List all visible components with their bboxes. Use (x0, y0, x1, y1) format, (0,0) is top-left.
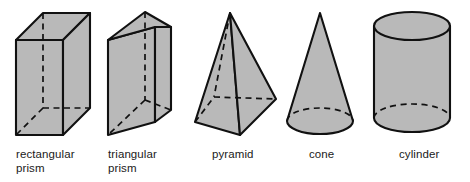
cylinder-lateral-face (374, 26, 450, 132)
label-pyramid: pyramid (212, 148, 254, 162)
pyramid-drawing (183, 0, 293, 145)
tri-prism-front-face (108, 27, 155, 135)
label-cone: cone (309, 148, 334, 162)
label-cylinder: cylinder (399, 148, 439, 162)
rect-prism-front-face (16, 40, 63, 135)
tri-prism-right-face (155, 27, 171, 122)
geometric-solids-figure: rectangular prism triangular prism pyram… (0, 0, 470, 182)
cone-lateral-face (287, 13, 353, 134)
rectangular-prism-drawing (0, 0, 110, 145)
label-rectangular-prism: rectangular prism (16, 148, 75, 175)
cylinder-top-ellipse (374, 12, 450, 40)
triangular-prism-drawing (98, 0, 193, 145)
cone-drawing (278, 0, 378, 145)
cylinder-drawing (368, 0, 468, 145)
label-triangular-prism: triangular prism (108, 148, 157, 175)
